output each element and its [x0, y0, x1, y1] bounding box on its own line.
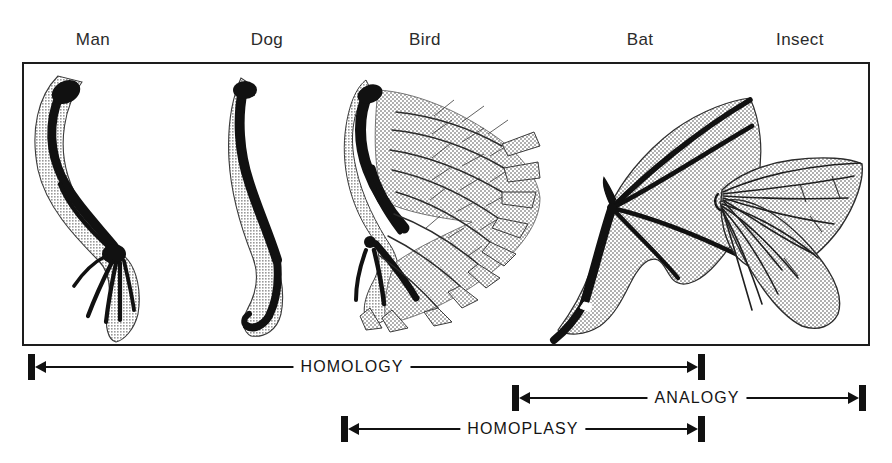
bracket-label-analogy: ANALOGY	[647, 385, 746, 410]
bracket-label-homology: HOMOLOGY	[293, 354, 410, 379]
bracket-cap-left	[512, 385, 519, 411]
arrow-right-icon	[848, 392, 859, 404]
specimen-man	[35, 75, 139, 342]
arrow-left-icon	[348, 423, 359, 435]
specimen-dog	[229, 78, 283, 336]
bracket-label-homoplasy: HOMOPLASY	[460, 416, 585, 441]
specimen-illustrations	[24, 64, 868, 344]
bracket-cap-right	[859, 385, 866, 411]
bracket-homology: HOMOLOGY	[28, 352, 705, 382]
bracket-cap-right	[698, 416, 705, 442]
bracket-group: HOMOLOGY ANALOGY HOMOPLASY	[0, 346, 892, 463]
specimen-label-bat: Bat	[627, 30, 654, 50]
specimen-label-insect: Insect	[776, 30, 824, 50]
bracket-cap-right	[698, 354, 705, 380]
arrow-left-icon	[519, 392, 530, 404]
specimen-label-bird: Bird	[409, 30, 441, 50]
specimen-insect	[715, 158, 862, 328]
bracket-homoplasy: HOMOPLASY	[341, 414, 705, 444]
arrow-right-icon	[687, 361, 698, 373]
specimen-label-man: Man	[76, 30, 110, 50]
arrow-left-icon	[35, 361, 46, 373]
bracket-analogy: ANALOGY	[512, 383, 866, 413]
comparative-anatomy-figure: Man Dog Bird Bat Insect	[0, 0, 892, 463]
specimen-label-dog: Dog	[251, 30, 283, 50]
specimen-bird	[344, 80, 540, 332]
bracket-cap-left	[341, 416, 348, 442]
bracket-cap-left	[28, 354, 35, 380]
arrow-right-icon	[687, 423, 698, 435]
illustration-panel	[22, 62, 870, 346]
